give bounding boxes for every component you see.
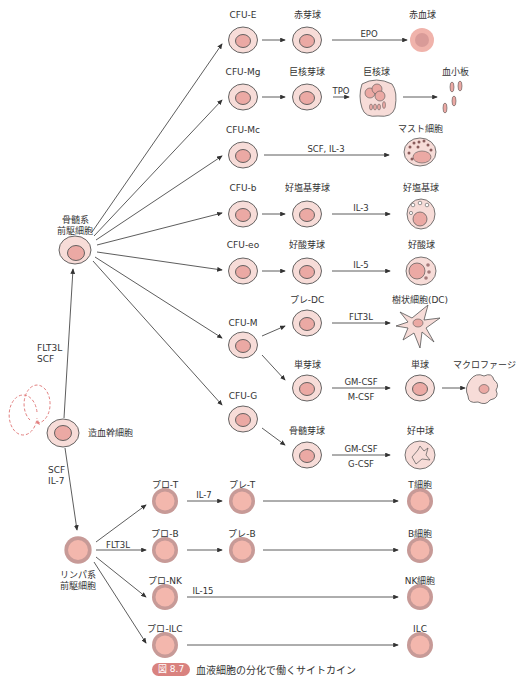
ilc-label: ILC (413, 624, 427, 635)
eosinophil-blast-label: 好酸芽球 (289, 240, 325, 251)
b-cell-label: B細胞 (408, 529, 432, 540)
hsc-lymphoid-cytokine-2: IL-7 (48, 476, 64, 487)
myeloid-progenitor-cell (59, 236, 91, 264)
gran-cytokine-1: GM-CSF (344, 444, 377, 454)
cfu-b-label: CFU-b (229, 183, 256, 194)
eosinophil-label: 好酸球 (408, 240, 435, 251)
basophil (407, 199, 435, 229)
eosinophil (406, 257, 436, 285)
gran-cytokine-2: G-CSF (348, 459, 374, 469)
mast-cell (404, 138, 436, 166)
myeloblast-label: 骨髄芽球 (289, 426, 325, 437)
hsc-lymphoid-cytokine-1: SCF (48, 465, 65, 476)
il7-label: IL-7 (196, 490, 212, 500)
megakaryocyte (360, 80, 396, 116)
pre-dc-label: プレ-DC (290, 295, 324, 306)
hsc-label: 造血幹細胞 (88, 428, 133, 439)
neutrophil-label: 好中球 (407, 426, 434, 437)
self-renewal-arrow (9, 395, 37, 435)
epo-label: EPO (360, 29, 377, 39)
hsc-myeloid-cytokine-1: FLT3L (37, 343, 62, 354)
platelet-label: 血小板 (442, 67, 469, 78)
cfu-e-label: CFU-E (230, 10, 257, 21)
monocyte-label: 単球 (411, 360, 429, 371)
lymphoid-flt3l-label: FLT3L (106, 540, 130, 550)
erythroblast-label: 赤芽球 (294, 10, 321, 21)
cfu-eo-label: CFU-eo (227, 240, 259, 251)
cfu-cells (229, 27, 258, 432)
stem-arrows (64, 269, 77, 530)
cfu-m-label: CFU-M (228, 318, 257, 329)
mast-cell-label: マスト細胞 (398, 124, 443, 135)
erythrocyte (410, 28, 434, 52)
pre-b-label: プレ-B (228, 529, 255, 540)
figure-badge: 図 8.7 (152, 663, 190, 676)
dc-label: 樹状細胞(DC) (392, 295, 448, 306)
lymphoid-progenitor-cell (64, 536, 91, 563)
lymphoid-arrows (94, 501, 398, 645)
cfu-g-label: CFU-G (229, 391, 258, 402)
lymphoid-progenitor-label-2: 前駆細胞 (60, 581, 96, 592)
dc-flt3l-label: FLT3L (349, 312, 373, 322)
platelets (443, 81, 462, 113)
nk-cell-label: NK細胞 (405, 576, 436, 587)
t-cell-label: T細胞 (408, 480, 432, 491)
cfu-mc-label: CFU-Mc (226, 125, 260, 136)
myeloid-progenitor-label-2: 前駆細胞 (57, 226, 93, 237)
basophil-label: 好塩基球 (403, 183, 439, 194)
mono-cytokine-2: M-CSF (348, 392, 375, 402)
pro-ilc-label: プロ-ILC (147, 624, 182, 635)
tpo-label: TPO (332, 86, 349, 96)
il5-label: IL-5 (353, 260, 369, 270)
mono-cytokine-1: GM-CSF (344, 377, 377, 387)
erythrocyte-label: 赤血球 (409, 10, 436, 21)
pro-t-label: プロ-T (152, 480, 179, 491)
myeloid-branch-arrows (92, 44, 222, 405)
neutrophil (405, 441, 435, 469)
lymphoid-progenitor-label-1: リンパ系 (60, 570, 96, 581)
pro-nk-label: プロ-NK (148, 576, 182, 587)
il3-label: IL-3 (353, 203, 369, 213)
figure-caption: 図 8.7 血液細胞の分化で働くサイトカイン (152, 662, 356, 677)
pro-b-label: プロ-B (151, 529, 178, 540)
macrophage (466, 375, 497, 404)
dendritic-cell (396, 305, 440, 348)
hsc-myeloid-cytokine-2: SCF (37, 354, 54, 365)
monoblast-label: 単芽球 (294, 360, 321, 371)
lymphoid-cells (152, 488, 433, 658)
basophil-blast-label: 好塩基芽球 (285, 183, 330, 194)
il15-label: IL-15 (193, 586, 214, 596)
megakaryoblast-label: 巨核芽球 (289, 67, 325, 78)
macrophage-label: マクロファージ (453, 360, 516, 371)
scf-il3-label: SCF, IL-3 (307, 144, 344, 154)
cfu-mg-label: CFU-Mg (226, 67, 261, 78)
hsc-cell (47, 419, 79, 447)
monocyte (406, 375, 435, 401)
myeloid-progenitor-label-1: 骨髄系 (62, 215, 89, 226)
megakaryocyte-label: 巨核球 (363, 67, 390, 78)
figure-title: 血液細胞の分化で働くサイトカイン (196, 662, 356, 677)
pre-t-label: プレ-T (229, 480, 256, 491)
